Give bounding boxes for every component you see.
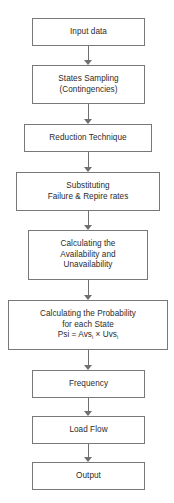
node-label-line: Calculating the Probability (40, 309, 136, 320)
connector-stem (88, 398, 89, 411)
arrow-avail-to-probability (84, 280, 93, 300)
node-label-line: Load Flow (69, 425, 107, 436)
arrow-sampling-to-reduction (84, 104, 93, 124)
connector-stem (88, 444, 89, 457)
flowchart-node-output: Output (32, 462, 145, 490)
node-label-line: Input data (70, 27, 107, 38)
node-label-line: Reduction Technique (49, 133, 126, 144)
flowchart-node-frequency: Frequency (32, 370, 145, 398)
node-label-line: for each State (62, 320, 114, 331)
connector-stem (88, 152, 89, 167)
node-label-line: Availability and (60, 250, 115, 261)
node-label-line: (Contingencies) (59, 85, 117, 96)
flowchart-node-states-sampling: States Sampling(Contingencies) (32, 65, 145, 104)
connector-stem (88, 104, 89, 119)
arrow-input-to-sampling (84, 46, 93, 65)
flowchart-node-calculating-availability: Calculating theAvailability andUnavailab… (28, 230, 148, 280)
node-label-line: Substituting (66, 181, 109, 192)
formula-subscript-2: i (117, 334, 118, 340)
connector-stem (88, 211, 89, 225)
flowchart-diagram: Input dataStates Sampling(Contingencies)… (0, 0, 174, 503)
node-label-line: Unavailability (64, 260, 113, 271)
formula-operator: × Uvs (93, 330, 117, 339)
arrow-loadflow-to-output (84, 444, 93, 462)
node-formula-line: Psi = Avsi × Uvsi (58, 330, 119, 341)
node-label-line: Output (76, 471, 101, 482)
arrow-reduction-to-substituting (84, 152, 93, 172)
flowchart-node-reduction-technique: Reduction Technique (24, 124, 152, 152)
flowchart-node-input-data: Input data (32, 18, 145, 46)
node-label-line: Failure & Repire rates (48, 192, 129, 203)
flowchart-node-calculating-probability: Calculating the Probabilityfor each Stat… (8, 300, 168, 350)
node-label-line: Calculating the (61, 239, 116, 250)
node-label-line: States Sampling (58, 74, 118, 85)
connector-stem (88, 350, 89, 365)
flowchart-node-load-flow: Load Flow (32, 416, 145, 444)
flowchart-node-substituting-rates: SubstitutingFailure & Repire rates (16, 172, 160, 211)
connector-stem (88, 46, 89, 60)
arrow-substituting-to-avail (84, 211, 93, 230)
arrow-frequency-to-loadflow (84, 398, 93, 416)
connector-stem (88, 280, 89, 295)
formula-prefix: Psi = Avs (58, 330, 92, 339)
arrow-probability-to-frequency (84, 350, 93, 370)
node-label-line: Frequency (69, 379, 108, 390)
